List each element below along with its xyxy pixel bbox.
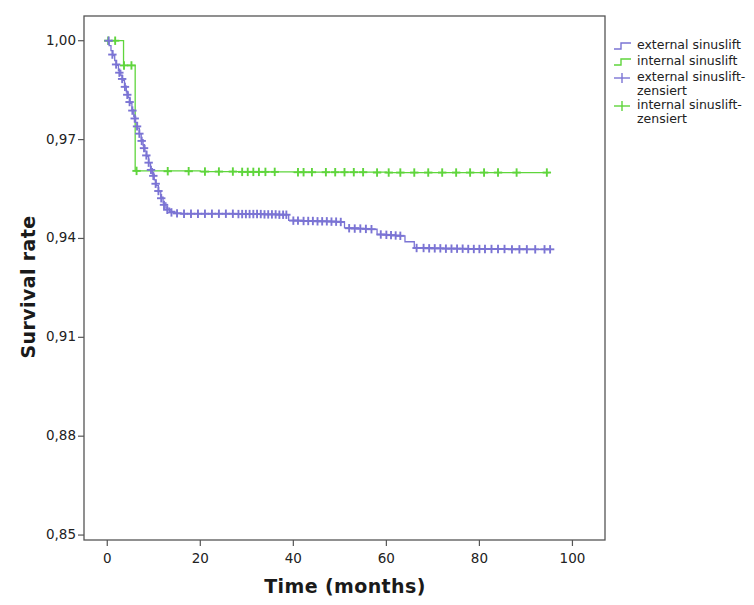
censor-mark [331,168,339,176]
censor-mark [229,167,237,175]
censor-mark [104,37,112,45]
legend-label: internal sinuslift- zensiert [637,98,742,125]
censor-mark [340,168,348,176]
censor-mark [480,168,488,176]
legend-marker-internal-sinuslift [612,54,634,69]
censor-mark [144,158,152,166]
censor-mark [164,167,172,175]
censor-mark [215,167,223,175]
censor-mark [373,168,381,176]
censor-mark [531,245,539,253]
series-external-sinuslift [104,37,554,254]
legend-item: external sinuslift [612,38,754,53]
censor-mark [452,168,460,176]
legend-label: external sinuslift- zensiert [637,70,745,97]
legend-item: external sinuslift- zensiert [612,70,754,97]
censor-mark [299,168,307,176]
censor-mark [308,168,316,176]
censor-mark [127,61,135,69]
censor-mark [424,168,432,176]
censor-mark [350,168,358,176]
censor-mark [512,168,520,176]
censor-mark [121,83,129,91]
censor-mark [322,168,330,176]
censor-mark [132,167,140,175]
censor-mark [135,129,143,137]
legend-marker-external-sinuslift [612,38,634,53]
censor-mark [494,168,502,176]
censor-mark [466,168,474,176]
censor-mark [384,168,392,176]
censor-mark [337,218,345,226]
chart-legend: external sinuslift internal sinuslift ex… [612,38,754,126]
censor-mark [543,168,551,176]
censor-mark [261,168,269,176]
legend-item: internal sinuslift [612,54,754,69]
censor-mark [359,168,367,176]
legend-label: external sinuslift [637,38,741,52]
censor-mark [137,137,145,145]
legend-marker-internal-sinuslift-zensiert [612,98,634,113]
censor-mark [523,245,531,253]
censor-mark [271,168,279,176]
censor-mark [396,168,404,176]
censor-mark [120,61,128,69]
censor-mark [438,168,446,176]
censor-mark [546,245,554,253]
censor-mark [396,232,404,240]
censor-mark [131,114,139,122]
legend-label: internal sinuslift [637,54,737,68]
censor-mark [184,167,192,175]
censor-mark [500,245,508,253]
censor-mark [367,225,375,233]
series-internal-sinuslift [104,37,551,177]
legend-marker-external-sinuslift-zensiert [612,70,634,85]
censor-mark [508,245,516,253]
survival-chart-figure: Survival rate Time (months) 0,850,880,91… [0,0,754,605]
censor-mark [410,168,418,176]
legend-item: internal sinuslift- zensiert [612,98,754,125]
censor-mark [515,245,523,253]
censor-mark [201,167,209,175]
